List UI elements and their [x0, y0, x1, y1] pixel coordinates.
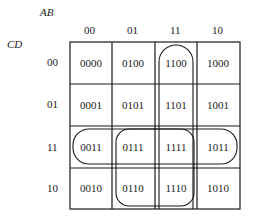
cell: 1000 [207, 57, 230, 69]
cell: 1111 [166, 141, 187, 153]
cell: 0001 [80, 99, 102, 111]
cell: 1100 [165, 57, 187, 69]
cell: 0010 [80, 182, 103, 194]
cell: 0011 [80, 141, 102, 153]
cell: 0000 [80, 57, 103, 69]
cell: 1001 [207, 99, 229, 111]
cell: 0111 [122, 141, 143, 153]
cell: 1110 [165, 182, 187, 194]
cell: 1101 [165, 99, 187, 111]
karnaugh-map-grid: 0000 0100 1100 1000 0001 0101 1101 1001 … [0, 0, 255, 220]
cell: 1011 [207, 141, 229, 153]
cell: 0101 [122, 99, 144, 111]
cell: 0110 [122, 182, 144, 194]
cell: 0100 [122, 57, 145, 69]
cell: 1010 [207, 182, 230, 194]
